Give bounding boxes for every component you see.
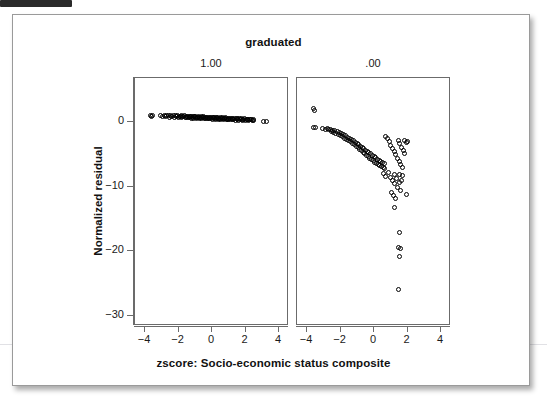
data-point xyxy=(313,125,318,130)
data-point xyxy=(398,188,403,193)
y-axis-tick xyxy=(127,121,133,122)
x-axis-tick xyxy=(245,326,246,332)
y-axis-line xyxy=(133,77,134,325)
y-axis-tick-label: −30 xyxy=(90,308,124,320)
data-point xyxy=(400,165,405,170)
x-axis-tick-label: −2 xyxy=(328,333,352,345)
data-point xyxy=(312,108,317,113)
plot-panel-graduated-0 xyxy=(296,77,450,325)
x-axis-tick-label: 4 xyxy=(428,333,452,345)
x-axis-tick xyxy=(178,326,179,332)
x-axis-tick-label: 4 xyxy=(266,333,290,345)
data-point xyxy=(402,151,407,156)
page-title: graduated xyxy=(0,36,547,48)
data-point xyxy=(264,119,269,124)
x-axis-tick xyxy=(407,326,408,332)
x-axis-tick xyxy=(440,326,441,332)
x-axis-tick xyxy=(211,326,212,332)
x-axis-tick-label: 2 xyxy=(395,333,419,345)
data-point xyxy=(397,254,402,259)
x-axis-tick-label: 2 xyxy=(233,333,257,345)
data-point xyxy=(396,287,401,292)
panel-strip-label-graduated-0: .00 xyxy=(296,57,450,69)
x-axis-tick xyxy=(373,326,374,332)
data-point xyxy=(399,178,404,183)
y-axis-tick xyxy=(127,250,133,251)
x-axis-tick-label: 0 xyxy=(361,333,385,345)
plot-panel-graduated-1 xyxy=(134,77,288,325)
x-axis-tick xyxy=(278,326,279,332)
x-axis-tick-label: −4 xyxy=(294,333,318,345)
data-point xyxy=(393,196,398,201)
data-point xyxy=(251,118,256,123)
scatter-plot-figure: graduated 1.00 .00 0−10−20−30 Normalized… xyxy=(0,0,547,408)
x-axis-tick xyxy=(306,326,307,332)
data-point xyxy=(150,113,155,118)
panel-strip-label-graduated-1: 1.00 xyxy=(134,57,288,69)
y-axis-tick xyxy=(127,186,133,187)
data-point xyxy=(397,230,402,235)
y-axis-tick xyxy=(127,315,133,316)
x-axis-tick xyxy=(144,326,145,332)
x-axis-title: zscore: Socio-economic status composite xyxy=(0,357,547,369)
data-point xyxy=(392,205,397,210)
x-axis-tick-label: −4 xyxy=(132,333,156,345)
data-point xyxy=(400,173,405,178)
y-axis-title: Normalized residual xyxy=(92,101,104,301)
data-point xyxy=(398,246,403,251)
x-axis-tick-label: 0 xyxy=(199,333,223,345)
x-axis-tick xyxy=(340,326,341,332)
data-point xyxy=(404,192,409,197)
x-axis-tick-label: −2 xyxy=(166,333,190,345)
data-point xyxy=(405,139,410,144)
